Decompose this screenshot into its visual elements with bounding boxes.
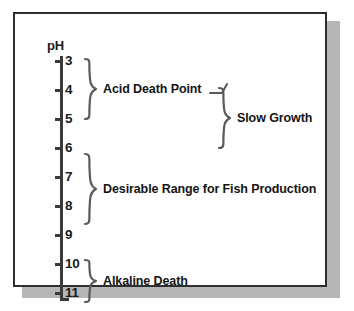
brace-alkaline-death	[83, 259, 99, 303]
label-acid-death-point: Acid Death Point	[103, 83, 201, 96]
diagram-card: pH 3 4 5 6 7 8 9 10 11 Acid Death Point …	[13, 12, 327, 287]
axis-tick-10	[55, 263, 62, 266]
axis-tick-label-7: 7	[65, 170, 72, 184]
brace-acid-death-point	[83, 58, 99, 120]
label-desirable-range: Desirable Range for Fish Production	[103, 183, 316, 196]
axis-tick-9	[55, 234, 62, 237]
axis-tick-label-10: 10	[65, 257, 79, 271]
axis-tick-label-6: 6	[65, 141, 72, 155]
axis-tick-6	[55, 147, 62, 150]
axis-tick-3	[55, 60, 62, 63]
axis-tick-5	[55, 118, 62, 121]
axis-tick-label-8: 8	[65, 199, 72, 213]
axis-tick-8	[55, 205, 62, 208]
brace-desirable-range	[83, 153, 99, 225]
axis-title-ph: pH	[47, 38, 64, 53]
axis-tick-label-5: 5	[65, 112, 72, 126]
axis-tick-label-3: 3	[65, 54, 72, 68]
label-slow-growth: Slow Growth	[237, 112, 312, 125]
axis-tick-4	[55, 89, 62, 92]
axis-tick-label-4: 4	[65, 83, 72, 97]
label-alkaline-death: Alkaline Death	[103, 275, 188, 288]
axis-tick-7	[55, 176, 62, 179]
axis-tick-label-11: 11	[65, 286, 79, 300]
brace-slow-growth	[217, 87, 233, 149]
axis-tick-label-9: 9	[65, 228, 72, 242]
axis-tick-11	[55, 292, 62, 295]
